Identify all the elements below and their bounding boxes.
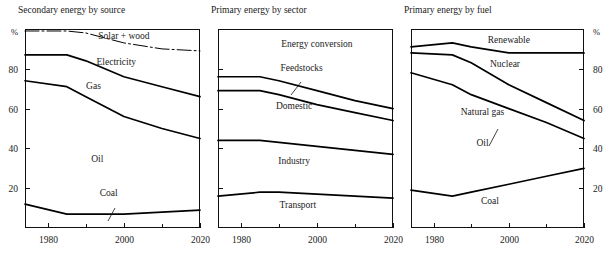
- leader-natural-gas-panel3: [489, 129, 498, 146]
- band-label-natural-gas: Natural gas: [461, 107, 505, 117]
- chart-panel-2: Primary energy by sector198020002020Ener…: [211, 5, 403, 245]
- band-label-industry: Industry: [278, 156, 310, 166]
- band-label-coal: Coal: [481, 196, 499, 206]
- x-tick-label: 1980: [425, 235, 444, 245]
- band-label-renewable: Renewable: [488, 35, 530, 45]
- band-label-coal: Coal: [100, 188, 118, 198]
- x-tick-label: 2020: [575, 235, 594, 245]
- x-tick-label: 1980: [39, 235, 58, 245]
- energy-charts-figure: Secondary energy by source20406080%19802…: [0, 0, 615, 258]
- y-axis-unit: %: [593, 27, 600, 37]
- x-tick-label: 2020: [384, 235, 403, 245]
- y-tick-label: 60: [593, 105, 603, 115]
- panel-title: Primary energy by sector: [211, 5, 307, 15]
- band-label-domestic: Domestic: [276, 101, 312, 111]
- chart-panel-1: Secondary energy by source20406080%19802…: [9, 5, 211, 245]
- y-tick-label: 40: [593, 144, 603, 154]
- band-label-oil: Oil: [91, 154, 104, 164]
- band-label-gas: Gas: [86, 81, 101, 91]
- y-tick-label: 20: [593, 184, 603, 194]
- series-boundary-industry: [218, 140, 393, 154]
- x-tick-label: 2000: [115, 235, 134, 245]
- band-label-electricity: Electricity: [97, 57, 137, 67]
- plot-frame: [219, 30, 393, 228]
- band-label-transport: Transport: [280, 200, 317, 210]
- panel-title: Secondary energy by source: [18, 5, 125, 15]
- y-tick-label: 20: [9, 184, 19, 194]
- y-tick-label: 80: [9, 65, 19, 75]
- band-label-nuclear: Nuclear: [490, 59, 521, 69]
- x-tick-label: 2020: [191, 235, 210, 245]
- y-tick-label: 60: [9, 105, 19, 115]
- band-label-solar-wood: Solar + wood: [98, 31, 150, 41]
- y-axis-unit: %: [11, 27, 18, 37]
- series-boundary-oil: [411, 168, 584, 196]
- chart-panel-3: Primary energy by fuel20406080%198020002…: [404, 5, 603, 245]
- x-tick-label: 1980: [232, 235, 251, 245]
- panel-title: Primary energy by fuel: [404, 5, 492, 15]
- x-tick-label: 2000: [500, 235, 519, 245]
- y-tick-label: 80: [593, 65, 603, 75]
- y-tick-label: 40: [9, 144, 19, 154]
- band-label-oil: Oil: [476, 138, 489, 148]
- charts-svg: Secondary energy by source20406080%19802…: [0, 0, 615, 258]
- x-tick-label: 2000: [308, 235, 327, 245]
- band-label-feedstocks: Feedstocks: [281, 63, 324, 73]
- series-boundary-transport: [218, 192, 393, 198]
- band-label-energy-conversion: Energy conversion: [281, 39, 353, 49]
